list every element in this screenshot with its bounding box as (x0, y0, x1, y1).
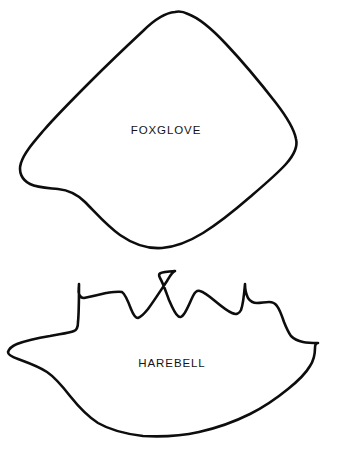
shape-harebell[interactable]: HAREBELL (8, 271, 318, 436)
shape-foxglove[interactable]: FOXGLOVE (20, 12, 297, 249)
pattern-canvas: FOXGLOVE HAREBELL (0, 0, 338, 454)
pattern-sheet: FOXGLOVE HAREBELL (0, 0, 338, 454)
foxglove-label: FOXGLOVE (131, 124, 201, 136)
harebell-label: HAREBELL (138, 357, 205, 369)
harebell-outline[interactable] (8, 271, 318, 436)
